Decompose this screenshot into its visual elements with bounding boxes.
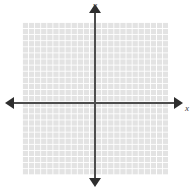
x-axis-label: x <box>185 104 189 113</box>
coordinate-plane-figure: x y <box>0 0 194 190</box>
y-axis-label: y <box>93 1 97 10</box>
x-axis-left-arrow-icon <box>5 97 14 109</box>
y-axis-line <box>94 12 96 182</box>
x-axis-right-arrow-icon <box>174 97 183 109</box>
y-axis-down-arrow-icon <box>89 178 101 187</box>
